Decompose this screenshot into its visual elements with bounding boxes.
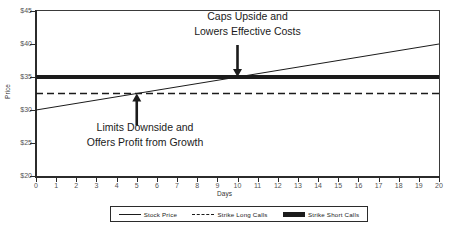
annotation-lower: Limits Downside and Offers Profit from G…	[55, 120, 235, 150]
chart-container: Price Days $20$25$30$35$40$45 0123456789…	[0, 0, 449, 230]
legend-item: Strike Long Calls	[192, 211, 267, 218]
legend-label: Strike Long Calls	[217, 211, 267, 218]
legend-swatch-icon	[119, 211, 141, 218]
chart-legend: Stock PriceStrike Long CallsStrike Short…	[110, 206, 368, 222]
legend-item: Strike Short Calls	[283, 211, 359, 218]
legend-swatch-icon	[283, 211, 305, 218]
legend-label: Strike Short Calls	[308, 211, 359, 218]
legend-item: Stock Price	[119, 211, 178, 218]
annotation-upper-line2: Lowers Effective Costs	[165, 24, 330, 39]
annotation-lower-line2: Offers Profit from Growth	[55, 135, 235, 150]
annotation-upper-line1: Caps Upside and	[165, 9, 330, 24]
legend-label: Stock Price	[144, 211, 178, 218]
legend-swatch-icon	[192, 211, 214, 218]
annotation-lower-line1: Limits Downside and	[55, 120, 235, 135]
annotation-lower-arrow-head	[132, 94, 141, 102]
annotation-upper: Caps Upside and Lowers Effective Costs	[165, 9, 330, 39]
